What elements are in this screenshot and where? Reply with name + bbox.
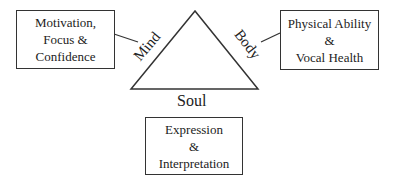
body-connector-line xyxy=(261,33,280,42)
soul-box-line-1: Expression xyxy=(165,121,223,138)
mind-box-line-3: Confidence xyxy=(36,48,96,65)
soul-box-line-2: & xyxy=(189,138,199,155)
body-box-line-2: & xyxy=(324,32,334,49)
mind-box-line-1: Motivation, xyxy=(35,14,96,31)
mind-connector-line xyxy=(114,34,138,42)
soul-label: Soul xyxy=(177,92,206,110)
body-box-line-1: Physical Ability xyxy=(288,15,371,32)
mind-box: Motivation, Focus & Confidence xyxy=(16,10,115,69)
body-box-line-3: Vocal Health xyxy=(296,49,363,66)
soul-box: Expression & Interpretation xyxy=(145,117,243,175)
body-box: Physical Ability & Vocal Health xyxy=(280,10,379,70)
soul-box-line-3: Interpretation xyxy=(159,155,230,172)
mind-box-line-2: Focus & xyxy=(43,31,87,48)
